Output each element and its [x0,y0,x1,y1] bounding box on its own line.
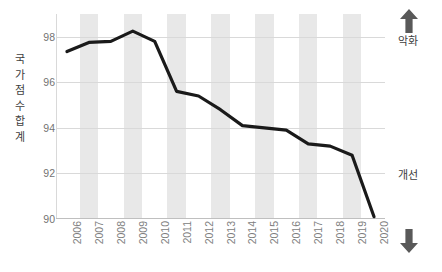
x-axis-tick-label: 2009 [137,221,149,244]
annotation-improving-icon-wrap [398,228,420,254]
x-axis-tick-label: 2018 [334,221,346,244]
x-axis-tick-label: 2014 [246,221,258,244]
line-series [56,14,385,219]
x-axis-tick-label: 2016 [290,221,302,244]
y-axis-tick-labels: 9092949698 [0,0,55,272]
x-axis-tick-label: 2008 [115,221,127,244]
y-axis-tick-label: 98 [17,31,55,43]
y-axis-tick-label: 90 [17,213,55,225]
x-axis-tick-label: 2012 [203,221,215,244]
x-axis-tick-labels: 2006200720082009201020112012201320142015… [56,221,385,271]
plot-area [56,14,385,219]
x-axis-tick-label: 2020 [378,221,390,244]
series-polyline [67,31,374,217]
x-axis-tick-label: 2010 [159,221,171,244]
x-axis-tick-label: 2017 [312,221,324,244]
annotation-improving: 개선 [398,168,442,184]
arrow-up-icon [398,8,420,34]
x-axis-tick-label: 2013 [225,221,237,244]
y-axis-tick-label: 94 [17,122,55,134]
x-axis-tick-label: 2019 [356,221,368,244]
y-axis-tick-label: 92 [17,167,55,179]
x-axis-tick-label: 2011 [181,221,193,244]
arrow-down-icon [398,228,420,254]
chart-container: 국 가 점 수 합 계 9092949698 20062007200820092… [0,0,442,272]
x-axis-tick-label: 2007 [93,221,105,244]
annotation-improving-label: 개선 [398,168,442,184]
annotation-worsening: 악화 [398,8,442,50]
x-axis-tick-label: 2015 [268,221,280,244]
x-axis-tick-label: 2006 [71,221,83,244]
y-axis-tick-label: 96 [17,76,55,88]
annotation-worsening-label: 악화 [398,34,442,50]
